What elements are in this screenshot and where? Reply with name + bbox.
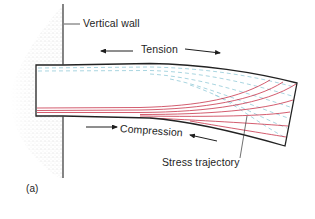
tension-right-arrow [185, 49, 220, 53]
panel-label: (a) [26, 184, 39, 194]
compression-left-arrow [190, 135, 217, 141]
cantilever-diagram: Vertical wall Tension Compression Stress… [0, 0, 315, 219]
tension-label: Tension [141, 44, 178, 55]
vertical-wall-label: Vertical wall [83, 18, 140, 29]
stress-trajectory-label: Stress trajectory [162, 157, 240, 168]
